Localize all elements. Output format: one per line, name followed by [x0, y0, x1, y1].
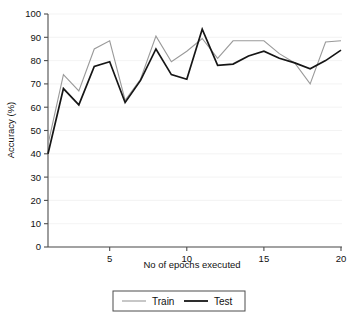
y-tick-label-100: 100 — [25, 8, 41, 19]
series-line-test — [48, 29, 341, 154]
legend-label-train: Train — [152, 296, 174, 307]
x-tick-label-15: 15 — [259, 253, 270, 264]
y-axis-ticks-group: 0102030405060708090100 — [25, 8, 48, 252]
y-tick-label-60: 60 — [30, 102, 41, 113]
chart-figure: 0102030405060708090100 5101520 No of epo… — [0, 0, 357, 317]
y-tick-label-50: 50 — [30, 125, 41, 136]
x-tick-label-20: 20 — [336, 253, 347, 264]
y-tick-label-20: 20 — [30, 195, 41, 206]
chart-legend: Train Test — [113, 291, 245, 311]
y-tick-label-0: 0 — [36, 241, 41, 252]
accuracy-vs-epochs-line-chart: 0102030405060708090100 5101520 No of epo… — [0, 0, 357, 317]
y-tick-label-70: 70 — [30, 78, 41, 89]
legend-label-test: Test — [214, 296, 233, 307]
y-tick-label-10: 10 — [30, 218, 41, 229]
y-tick-label-80: 80 — [30, 55, 41, 66]
x-tick-label-5: 5 — [107, 253, 112, 264]
data-series-group — [48, 29, 341, 154]
x-axis-title: No of epochs executed — [143, 259, 240, 270]
y-tick-label-40: 40 — [30, 148, 41, 159]
gridlines-group — [48, 14, 342, 247]
y-tick-label-90: 90 — [30, 32, 41, 43]
y-tick-label-30: 30 — [30, 172, 41, 183]
y-axis-title: Accuracy (%) — [5, 102, 16, 158]
